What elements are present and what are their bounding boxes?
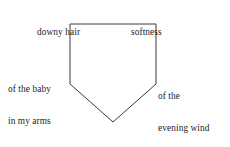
label-of-the-evening-wind: of the evening wind bbox=[158, 70, 210, 147]
pentagon-diagram: downy hair softness of the baby in my ar… bbox=[0, 0, 230, 147]
label-in-my-arms-line2: in my arms bbox=[8, 116, 51, 127]
label-evening-wind-line2: evening wind bbox=[158, 123, 210, 134]
label-downy-hair: downy hair bbox=[37, 6, 80, 59]
label-softness: softness bbox=[131, 6, 162, 59]
label-i-love: I love bbox=[92, 127, 114, 147]
label-of-the-baby-line1: of the baby bbox=[8, 84, 51, 95]
label-softness-text: softness bbox=[131, 27, 162, 38]
label-downy-hair-text: downy hair bbox=[37, 27, 80, 38]
label-of-the-line1: of the bbox=[158, 91, 210, 102]
label-of-the-baby-in-my-arms: of the baby in my arms bbox=[8, 63, 51, 147]
